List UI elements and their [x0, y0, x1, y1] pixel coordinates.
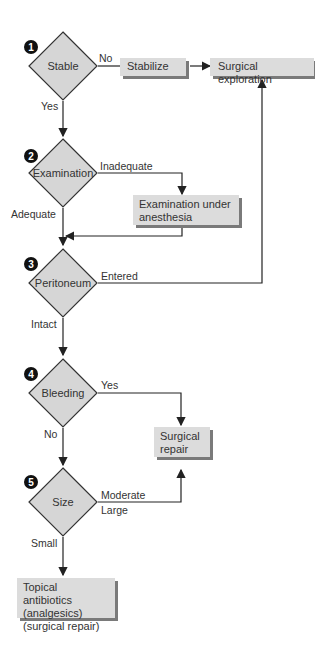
decision-size: Size — [28, 467, 98, 537]
action-label-line1: Surgical — [160, 430, 204, 443]
step-badge-2: 2 — [24, 149, 38, 163]
action-label-line1: Topical antibiotics — [23, 581, 109, 607]
action-label-line2: anesthesia — [139, 211, 233, 224]
step-badge-5: 5 — [24, 475, 38, 489]
action-label: Stabilize — [127, 60, 169, 72]
edge-label-stable-yes: Yes — [41, 100, 58, 112]
decision-label: Examination — [28, 138, 98, 208]
action-stabilize: Stabilize — [120, 58, 186, 76]
edge-label-exam-adequate: Adequate — [11, 208, 56, 220]
step-badge-4: 4 — [24, 367, 38, 381]
edge-label-stable-no: No — [99, 52, 112, 64]
decision-examination: Examination — [28, 138, 98, 208]
edge-label-bleeding-yes: Yes — [101, 379, 118, 391]
decision-label: Bleeding — [28, 358, 98, 428]
decision-peritoneum: Peritoneum — [28, 248, 98, 318]
action-label: Surgical exploration — [218, 60, 272, 85]
edge-label-bleeding-no: No — [44, 428, 57, 440]
decision-bleeding: Bleeding — [28, 358, 98, 428]
action-topical-antibiotics: Topical antibiotics (analgesics) (surgic… — [17, 578, 115, 618]
step-badge-1: 1 — [24, 40, 38, 54]
decision-label: Stable — [28, 31, 98, 101]
action-label-line1: Examination under — [139, 198, 233, 211]
action-surgical-repair: Surgical repair — [154, 427, 210, 457]
step-badge-3: 3 — [24, 257, 38, 271]
decision-label: Peritoneum — [28, 248, 98, 318]
edge-label-size-moderate: Moderate — [101, 489, 145, 501]
action-label-line2: (analgesics) — [23, 607, 109, 620]
edge-label-peritoneum-entered: Entered — [101, 270, 138, 282]
decision-label: Size — [28, 467, 98, 537]
edge-label-peritoneum-intact: Intact — [31, 318, 57, 330]
edge-label-exam-inadequate: Inadequate — [100, 160, 153, 172]
edge-label-size-large: Large — [101, 504, 128, 516]
action-exam-under-anesthesia: Examination under anesthesia — [133, 195, 239, 225]
action-surgical-exploration: Surgical exploration — [210, 58, 314, 76]
action-label-line3: (surgical repair) — [23, 620, 109, 633]
edge-label-size-small: Small — [31, 537, 57, 549]
action-label-line2: repair — [160, 443, 204, 456]
decision-stable: Stable — [28, 31, 98, 101]
